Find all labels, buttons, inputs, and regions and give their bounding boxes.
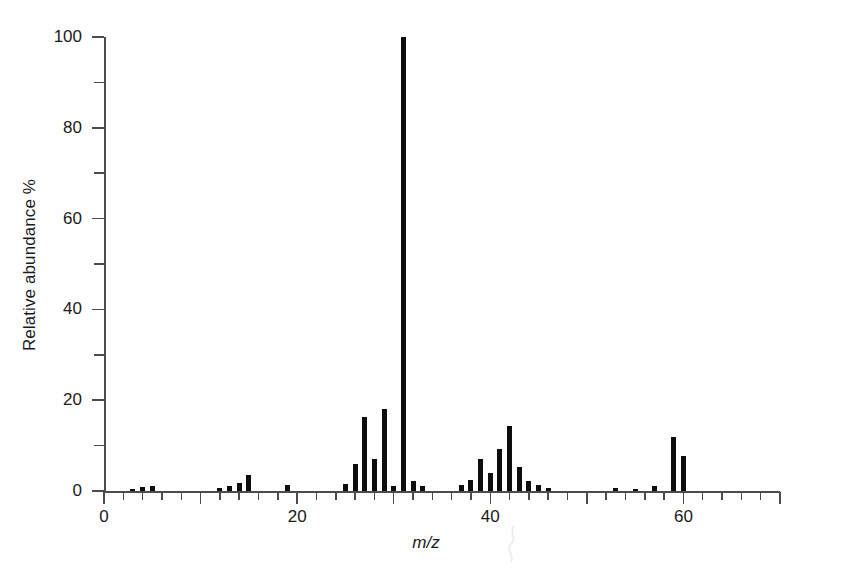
- x-tick-minor: [663, 492, 665, 500]
- x-tick-major: [200, 492, 202, 504]
- x-tick-major: [393, 492, 395, 504]
- x-tick-minor: [702, 492, 704, 500]
- spectrum-peak: [507, 426, 512, 491]
- x-tick-major: [490, 492, 492, 504]
- spectrum-bars: [0, 0, 852, 569]
- x-tick-minor: [605, 492, 607, 500]
- x-tick-major: [103, 492, 105, 504]
- x-tick-minor: [451, 492, 453, 500]
- x-tick-major: [779, 492, 781, 504]
- x-tick-minor: [760, 492, 762, 500]
- x-tick-minor: [335, 492, 337, 500]
- spectrum-peak: [343, 484, 348, 491]
- x-tick-minor: [741, 492, 743, 500]
- spectrum-peak: [488, 473, 493, 491]
- x-tick-major: [586, 492, 588, 504]
- x-tick-minor: [123, 492, 125, 500]
- x-tick-minor: [412, 492, 414, 500]
- x-tick-minor: [219, 492, 221, 500]
- x-axis-title: m/z: [0, 533, 852, 553]
- x-tick-label: 0: [74, 508, 134, 525]
- spectrum-peak: [681, 456, 686, 491]
- spectrum-peak: [372, 459, 377, 491]
- x-tick-label: 20: [267, 508, 327, 525]
- x-tick-major: [683, 492, 685, 504]
- scan-artifact: [502, 524, 522, 564]
- x-tick-minor: [354, 492, 356, 500]
- spectrum-peak: [382, 409, 387, 491]
- x-tick-minor: [721, 492, 723, 500]
- mass-spectrum-figure: Relative abundance % 020406080100 020406…: [0, 0, 852, 569]
- spectrum-peak: [411, 481, 416, 491]
- x-tick-minor: [258, 492, 260, 500]
- spectrum-peak: [478, 459, 483, 491]
- spectrum-peak: [671, 437, 676, 491]
- x-tick-minor: [142, 492, 144, 500]
- spectrum-peak: [362, 417, 367, 491]
- spectrum-peak: [246, 475, 251, 491]
- x-tick-minor: [547, 492, 549, 500]
- x-tick-minor: [238, 492, 240, 500]
- x-tick-label: 60: [653, 508, 713, 525]
- spectrum-peak: [353, 464, 358, 491]
- spectrum-peak: [237, 483, 242, 491]
- x-tick-label: 40: [460, 508, 520, 525]
- spectrum-peak: [517, 467, 522, 491]
- x-tick-minor: [161, 492, 163, 500]
- spectrum-peak: [526, 481, 531, 491]
- spectrum-peak: [401, 37, 406, 491]
- x-tick-minor: [316, 492, 318, 500]
- x-tick-major: [296, 492, 298, 504]
- x-tick-minor: [277, 492, 279, 500]
- x-tick-minor: [644, 492, 646, 500]
- x-tick-minor: [528, 492, 530, 500]
- x-axis-line: [104, 491, 780, 493]
- x-tick-minor: [509, 492, 511, 500]
- spectrum-peak: [468, 480, 473, 491]
- x-tick-minor: [625, 492, 627, 500]
- x-tick-minor: [374, 492, 376, 500]
- x-tick-minor: [470, 492, 472, 500]
- spectrum-peak: [497, 449, 502, 491]
- x-tick-minor: [432, 492, 434, 500]
- x-tick-minor: [181, 492, 183, 500]
- x-tick-minor: [567, 492, 569, 500]
